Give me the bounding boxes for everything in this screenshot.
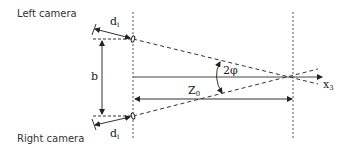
angle-label: 2φ [223,64,238,77]
right-focal-label: di [110,127,120,141]
baseline-label: b [91,70,98,83]
right-lens-icon [131,112,136,119]
left-lens-icon [131,35,136,42]
right-focal-arrow [95,117,130,125]
stereo-camera-diagram: Left camera Right camera b di di Z0 2φ x… [0,0,348,151]
distance-label: Z0 [188,84,200,98]
x3-axis-label: x3 [323,78,334,92]
left-focal-label: di [110,15,120,29]
left-focal-arrow [95,29,130,38]
right-camera-label: Right camera [17,133,84,144]
left-camera-label: Left camera [17,8,77,19]
